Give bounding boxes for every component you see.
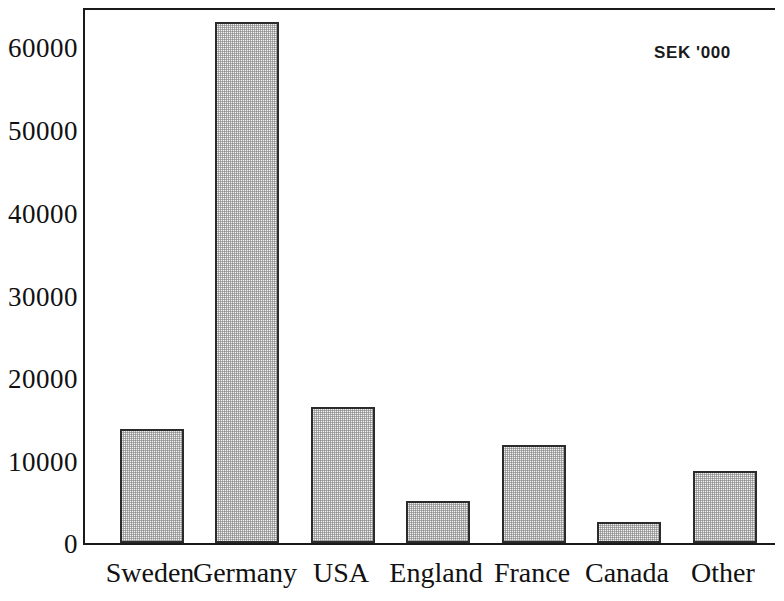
x-axis-tick-label: Other bbox=[661, 553, 784, 593]
x-axis-labels: Sweden Germany USA England France Canada… bbox=[83, 553, 775, 599]
bar-france bbox=[502, 445, 566, 543]
y-axis-tick-label: 60000 bbox=[8, 35, 78, 62]
bar-sweden bbox=[120, 429, 184, 543]
bar-germany bbox=[215, 22, 279, 543]
y-axis-tick-label: 20000 bbox=[8, 366, 78, 393]
y-axis-tick-label: 10000 bbox=[8, 449, 78, 476]
bar-other bbox=[693, 471, 757, 543]
y-axis-tick-label: 40000 bbox=[8, 201, 78, 228]
y-axis-tick-label: 30000 bbox=[8, 284, 78, 311]
y-axis-tick-label: 0 bbox=[64, 531, 78, 558]
units-annotation: SEK '000 bbox=[654, 43, 731, 63]
bar-chart: 60000 50000 40000 30000 20000 10000 0 SE… bbox=[0, 0, 784, 601]
y-axis-tick-label: 50000 bbox=[8, 118, 78, 145]
bar-canada bbox=[597, 522, 661, 543]
plot-area bbox=[83, 8, 775, 545]
bar-usa bbox=[311, 407, 375, 543]
bar-england bbox=[406, 501, 470, 543]
